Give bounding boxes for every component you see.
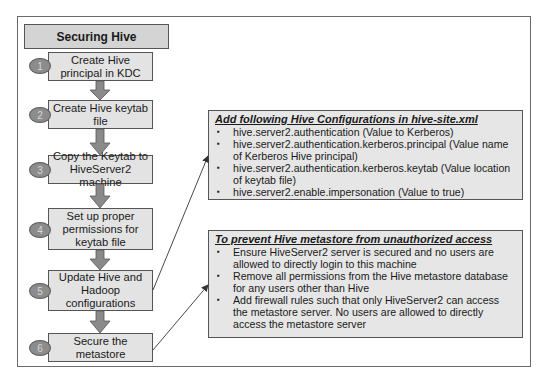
- connector-step6-to-metastore: [153, 285, 208, 350]
- connector-step5-to-config: [153, 156, 208, 290]
- connector-lines: [0, 0, 548, 383]
